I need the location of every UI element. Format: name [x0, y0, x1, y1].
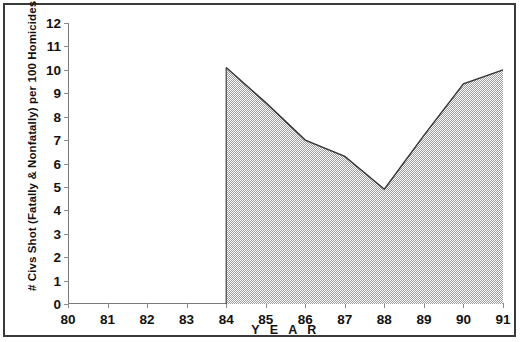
- y-tick-label: 3: [53, 226, 61, 241]
- y-tick-label: 1: [53, 273, 61, 288]
- y-tick-label: 7: [53, 133, 61, 148]
- chart-figure-frame: # Civs Shot (Fatally & Nonfatally) per 1…: [3, 3, 516, 337]
- y-tick-label: 2: [53, 250, 61, 265]
- y-tick-label: 10: [46, 62, 61, 77]
- y-tick-label: 12: [46, 16, 61, 31]
- y-tick-label: 0: [53, 297, 61, 312]
- y-tick-label: 5: [53, 179, 61, 194]
- y-tick-label: 4: [53, 203, 61, 218]
- plot-area: 0123456789101112 80818283848586878889909…: [68, 23, 503, 304]
- y-tick-label: 9: [53, 86, 61, 101]
- x-axis-title: Y E A R: [68, 323, 503, 337]
- y-tick-label: 8: [53, 109, 61, 124]
- y-tick-label: 6: [53, 156, 61, 171]
- area-fill: [226, 67, 503, 304]
- x-tick-mark: [503, 303, 504, 308]
- area-series: [68, 23, 503, 304]
- y-tick-label: 11: [47, 39, 61, 54]
- y-axis-title: # Civs Shot (Fatally & Nonfatally) per 1…: [26, 11, 38, 291]
